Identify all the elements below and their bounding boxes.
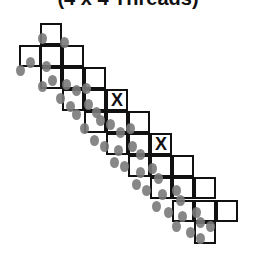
dot (84, 99, 93, 110)
dot (148, 163, 157, 174)
dot (42, 61, 51, 72)
dot (142, 185, 151, 196)
dot (26, 57, 35, 68)
dot (152, 201, 161, 212)
dot (72, 109, 81, 120)
dot (172, 221, 181, 232)
data-points (0, 0, 256, 266)
dot (56, 93, 65, 104)
dot (136, 167, 145, 178)
dot (114, 145, 123, 156)
dot (178, 211, 187, 222)
dot (110, 157, 119, 168)
dot (136, 149, 145, 160)
dot (38, 33, 47, 44)
dot (116, 127, 125, 138)
dot (206, 221, 215, 232)
dot (16, 65, 25, 76)
dot (80, 123, 89, 134)
dot (38, 81, 47, 92)
dot (62, 79, 71, 90)
dot (60, 37, 69, 48)
dot (90, 135, 99, 146)
dot (158, 189, 167, 200)
dot (154, 173, 163, 184)
dot (196, 217, 205, 228)
dot (72, 85, 81, 96)
dot (96, 115, 105, 126)
dot (128, 141, 137, 152)
dot (176, 195, 185, 206)
dot (82, 83, 91, 94)
dot (48, 75, 57, 86)
dot (164, 207, 173, 218)
dot (132, 179, 141, 190)
dot (126, 123, 135, 134)
dot (106, 119, 115, 130)
dot (100, 141, 109, 152)
dot (196, 233, 205, 244)
dot (120, 161, 129, 172)
dot (186, 227, 195, 238)
